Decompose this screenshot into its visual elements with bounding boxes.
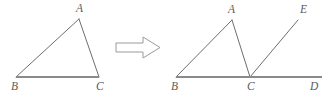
- left-label-C: C: [96, 80, 104, 92]
- transform-arrow-group: [116, 37, 160, 58]
- right-label-A: A: [227, 3, 236, 15]
- left-label-A: A: [75, 2, 84, 14]
- right-label-D: D: [309, 80, 319, 92]
- right-segment-CE: [250, 20, 298, 77]
- right-triangle-group: A E B C D: [171, 3, 322, 92]
- figure-canvas: A B C A E B C D: [0, 0, 332, 96]
- left-triangle-group: A B C: [11, 2, 104, 92]
- right-label-B: B: [171, 80, 178, 92]
- right-segment-BA: [176, 20, 232, 77]
- right-segment-AC: [232, 20, 250, 77]
- right-label-E: E: [299, 3, 307, 15]
- left-label-B: B: [11, 80, 18, 92]
- geometry-figure: A B C A E B C D: [0, 0, 332, 96]
- right-arrow-icon: [116, 37, 160, 58]
- left-segment-BA: [16, 19, 79, 77]
- right-label-C: C: [247, 80, 255, 92]
- left-segment-AC: [79, 19, 99, 77]
